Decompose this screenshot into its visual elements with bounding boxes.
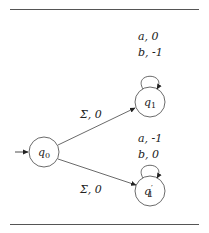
edge-q0-q1-prime-label: Σ, 0 xyxy=(79,183,102,196)
edge-q0-q1-prime xyxy=(58,159,136,185)
state-q0-label: q0 xyxy=(38,146,50,160)
automaton-diagram: q0 q1 q′1 Σ, 0 Σ, 0 a, 0 b, -1 a, -1 b, … xyxy=(0,0,209,233)
loop-q1-prime-label-a: a, -1 xyxy=(138,132,162,145)
loop-q1-label-a: a, 0 xyxy=(138,30,159,43)
loop-q1-label-b: b, -1 xyxy=(138,46,163,59)
state-q1-prime-label: q′1 xyxy=(144,183,153,199)
state-q1-label: q1 xyxy=(144,96,156,110)
loop-q1-prime-label-b: b, 0 xyxy=(138,148,159,161)
edge-q0-q1-label: Σ, 0 xyxy=(79,108,102,121)
